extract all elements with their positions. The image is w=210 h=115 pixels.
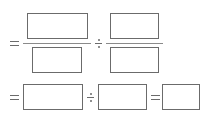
fraction2-numerator-input[interactable] <box>110 13 159 39</box>
equals-sign-row2-second <box>151 95 160 100</box>
fraction2-denominator-input[interactable] <box>110 47 159 73</box>
fraction2-bar <box>106 43 163 44</box>
equals-sign-row1 <box>10 41 19 46</box>
result-divisor-input[interactable] <box>98 84 147 110</box>
fraction1-bar <box>23 43 91 44</box>
equals-sign-row2-first <box>10 95 19 100</box>
fraction1-numerator-input[interactable] <box>27 13 88 39</box>
divide-sign-row2 <box>87 93 94 102</box>
final-answer-input[interactable] <box>162 84 200 110</box>
divide-sign-row1 <box>95 39 102 48</box>
fraction1-denominator-input[interactable] <box>32 47 82 73</box>
result-dividend-input[interactable] <box>23 84 83 110</box>
